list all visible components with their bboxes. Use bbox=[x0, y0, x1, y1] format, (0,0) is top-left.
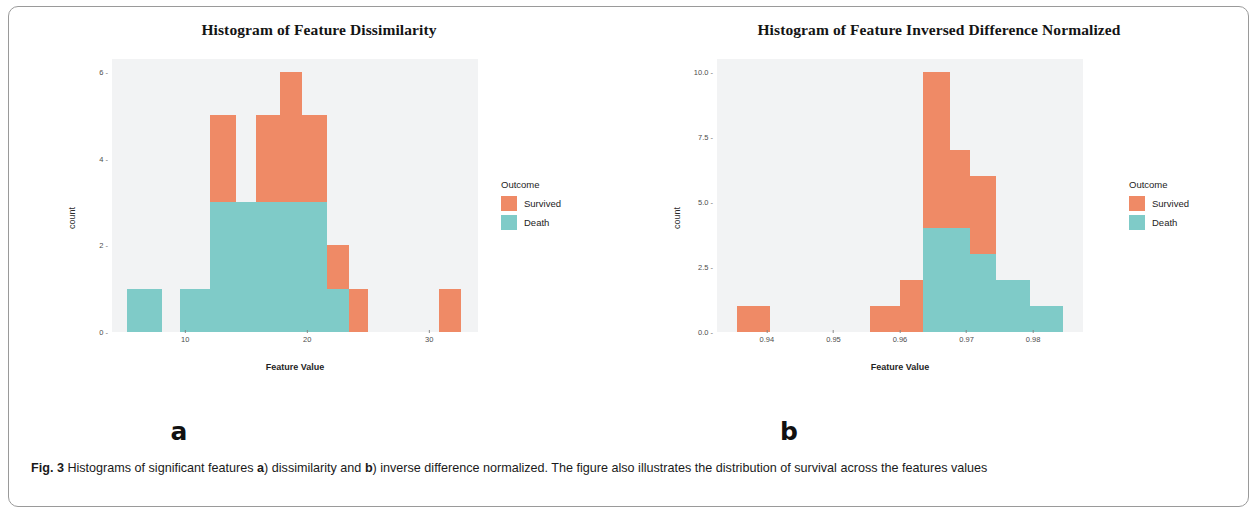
bar-segment-survived bbox=[923, 72, 950, 228]
chart-title-a: Histogram of Feature Dissimilarity bbox=[9, 21, 629, 39]
legend-label-survived-b: Survived bbox=[1152, 198, 1189, 209]
legend-item-death-b: Death bbox=[1129, 215, 1249, 230]
plot-panel-a bbox=[112, 59, 478, 332]
legend-title-b: Outcome bbox=[1129, 179, 1249, 190]
chart-panel-b: Histogram of Feature Inversed Difference… bbox=[629, 7, 1249, 447]
histogram-bar bbox=[280, 72, 302, 332]
x-axis-tick-label: 20 bbox=[303, 330, 311, 344]
histogram-bar bbox=[236, 202, 256, 332]
bar-segment-survived bbox=[302, 115, 326, 202]
x-axis-tick-label: 0.94 bbox=[760, 330, 775, 344]
legend-item-death-a: Death bbox=[501, 215, 621, 230]
histogram-bar bbox=[1030, 306, 1063, 332]
figure-frame: Histogram of Feature Dissimilarity count… bbox=[8, 6, 1249, 507]
histogram-bar bbox=[439, 289, 461, 332]
bars-a bbox=[112, 59, 478, 332]
bar-segment-death bbox=[950, 228, 970, 332]
x-axis-title-b: Feature Value bbox=[717, 362, 1083, 372]
y-axis-tick-label: 4 - bbox=[99, 154, 108, 163]
x-axis-a: 102030 bbox=[112, 330, 478, 352]
caption-text-3: ) inverse difference normalized. The fig… bbox=[373, 461, 988, 475]
caption-text-1: Histograms of significant features bbox=[64, 461, 257, 475]
bar-segment-survived bbox=[327, 245, 349, 288]
bar-segment-death bbox=[256, 202, 280, 332]
histogram-bar bbox=[970, 176, 997, 332]
chart-panel-a: Histogram of Feature Dissimilarity count… bbox=[9, 7, 629, 447]
legend-label-survived-a: Survived bbox=[524, 198, 561, 209]
histogram-bar bbox=[327, 245, 349, 332]
figure-caption: Fig. 3 Histograms of significant feature… bbox=[31, 459, 1229, 479]
plot-panel-b bbox=[717, 59, 1083, 332]
panel-letter-a: a bbox=[0, 417, 489, 446]
bar-segment-survived bbox=[870, 306, 900, 332]
bar-segment-death bbox=[996, 280, 1029, 332]
legend-title-a: Outcome bbox=[501, 179, 621, 190]
x-axis-b: 0.940.950.960.970.98 bbox=[717, 330, 1083, 352]
x-axis-tick-label: 0.98 bbox=[1026, 330, 1041, 344]
bar-segment-survived bbox=[737, 306, 770, 332]
legend-a: Outcome Survived Death bbox=[501, 179, 621, 234]
bar-segment-survived bbox=[349, 289, 369, 332]
chart-title-b: Histogram of Feature Inversed Difference… bbox=[629, 21, 1249, 39]
histogram-bar bbox=[737, 306, 770, 332]
histogram-bar bbox=[870, 306, 900, 332]
y-axis-tick-label: 2 - bbox=[99, 241, 108, 250]
y-axis-tick-label: 5.0 - bbox=[698, 198, 713, 207]
legend-label-death-a: Death bbox=[524, 217, 549, 228]
x-axis-tick-label: 0.97 bbox=[959, 330, 974, 344]
y-axis-tick-label: 7.5 - bbox=[698, 133, 713, 142]
bar-segment-survived bbox=[950, 150, 970, 228]
y-axis-b: 0.0 -2.5 -5.0 -7.5 -10.0 - bbox=[669, 59, 717, 332]
plot-area-a: count 0 -2 -4 -6 - 102030 Feature Value bbox=[64, 55, 484, 380]
bar-segment-survived bbox=[256, 115, 280, 202]
bar-segment-death bbox=[210, 202, 237, 332]
bar-segment-survived bbox=[280, 72, 302, 202]
legend-item-survived-a: Survived bbox=[501, 196, 621, 211]
bar-segment-survived bbox=[439, 289, 461, 332]
bar-segment-death bbox=[127, 289, 162, 332]
histogram-bar bbox=[127, 289, 162, 332]
legend-swatch-survived-b bbox=[1129, 196, 1145, 211]
legend-swatch-death-b bbox=[1129, 215, 1145, 230]
histogram-bar bbox=[900, 280, 923, 332]
histogram-bar bbox=[349, 289, 369, 332]
bar-segment-death bbox=[923, 228, 950, 332]
caption-text-2: ) dissimilarity and bbox=[264, 461, 365, 475]
legend-item-survived-b: Survived bbox=[1129, 196, 1249, 211]
histogram-bar bbox=[256, 115, 280, 332]
histogram-bar bbox=[923, 72, 950, 332]
caption-bold-b: b bbox=[365, 461, 373, 475]
bar-segment-death bbox=[302, 202, 326, 332]
bar-segment-survived bbox=[900, 280, 923, 332]
bar-segment-survived bbox=[210, 115, 237, 202]
legend-label-death-b: Death bbox=[1152, 217, 1177, 228]
bar-segment-death bbox=[327, 289, 349, 332]
x-axis-title-a: Feature Value bbox=[112, 362, 478, 372]
panel-letter-b: b bbox=[479, 417, 1099, 446]
x-axis-tick-label: 0.95 bbox=[826, 330, 841, 344]
caption-figure-label: Fig. 3 bbox=[31, 461, 64, 475]
bars-b bbox=[717, 59, 1083, 332]
bar-segment-death bbox=[970, 254, 997, 332]
x-axis-tick-label: 0.96 bbox=[893, 330, 908, 344]
y-axis-a: 0 -2 -4 -6 - bbox=[64, 59, 112, 332]
bar-segment-death bbox=[1030, 306, 1063, 332]
histogram-bar bbox=[996, 280, 1029, 332]
plot-area-b: count 0.0 -2.5 -5.0 -7.5 -10.0 - 0.940.9… bbox=[669, 55, 1089, 380]
legend-b: Outcome Survived Death bbox=[1129, 179, 1249, 234]
bar-segment-death bbox=[180, 289, 209, 332]
y-axis-tick-label: 2.5 - bbox=[698, 263, 713, 272]
y-axis-tick-label: 0.0 - bbox=[698, 328, 713, 337]
histogram-bar bbox=[302, 115, 326, 332]
legend-swatch-death-a bbox=[501, 215, 517, 230]
y-axis-tick-label: 6 - bbox=[99, 68, 108, 77]
x-axis-tick-label: 10 bbox=[181, 330, 189, 344]
plots-row: Histogram of Feature Dissimilarity count… bbox=[9, 7, 1250, 447]
bar-segment-death bbox=[236, 202, 256, 332]
legend-swatch-survived-a bbox=[501, 196, 517, 211]
x-axis-tick-label: 30 bbox=[425, 330, 433, 344]
bar-segment-death bbox=[280, 202, 302, 332]
histogram-bar bbox=[210, 115, 237, 332]
y-axis-tick-label: 10.0 - bbox=[694, 68, 713, 77]
histogram-bar bbox=[180, 289, 209, 332]
